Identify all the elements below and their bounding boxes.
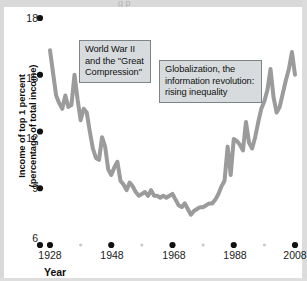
x-minor-tick-dot — [263, 244, 266, 247]
page-bleed-right — [302, 0, 307, 281]
chart-plot-area: 18 15 12 9 6 1928 1948 1968 1988 2008 In… — [4, 7, 302, 278]
x-tick-label-2008: 2008 — [275, 250, 307, 261]
y-axis-title-line-2: (percentage of total income) — [27, 65, 38, 188]
y-axis-title-line-1: Income of top 1 percent — [16, 74, 27, 177]
x-tick-label-1968: 1968 — [154, 250, 194, 261]
x-tick-dot — [292, 242, 298, 248]
x-minor-tick-dot — [140, 244, 143, 247]
annotation-globalization-line-3: rising inequality — [165, 87, 256, 99]
annotation-world-war-2: World War II and the "Great Compression" — [79, 40, 151, 83]
annotation-ww2-line-2: and the "Great — [85, 56, 145, 68]
annotation-globalization: Globalization, the information revolutio… — [159, 60, 262, 103]
y-tick-label-18: 18 — [16, 13, 38, 23]
line-chart-svg — [4, 7, 302, 278]
annotation-globalization-line-2: information revolution: — [165, 76, 256, 88]
x-tick-dot — [47, 242, 53, 248]
x-tick-dot — [108, 242, 114, 248]
x-tick-label-1928: 1928 — [30, 250, 70, 261]
x-tick-dot — [169, 242, 175, 248]
x-axis-title: Year — [44, 266, 66, 278]
y-tick-label-6: 6 — [16, 233, 38, 243]
y-axis-title: Income of top 1 percent (percentage of t… — [16, 51, 38, 201]
bleed-ghost-text: g p — [118, 0, 131, 7]
x-minor-tick-dot — [79, 244, 82, 247]
x-tick-label-1948: 1948 — [92, 250, 132, 261]
annotation-ww2-line-1: World War II — [85, 44, 145, 56]
x-tick-dot — [231, 242, 237, 248]
page-bleed-top: g p — [0, 0, 307, 7]
axis-tick-dot-group — [37, 15, 298, 248]
x-tick-label-1988: 1988 — [215, 250, 255, 261]
x-minor-tick-dot — [202, 244, 205, 247]
annotation-ww2-line-3: Compression" — [85, 67, 145, 79]
annotation-globalization-line-1: Globalization, the — [165, 64, 256, 76]
figure-container: g p 18 15 12 9 6 1928 1948 1968 1988 200… — [0, 0, 307, 281]
